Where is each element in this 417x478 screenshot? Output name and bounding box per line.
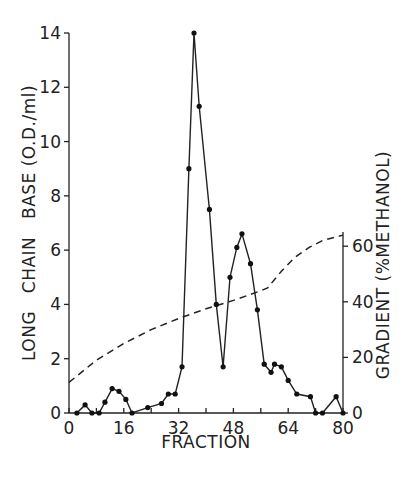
data-point [334,394,339,399]
long-chain-base-line [77,33,343,413]
data-point [294,391,299,396]
data-point [262,362,267,367]
y-tick-label: 0 [50,403,61,423]
data-point [74,410,79,415]
gradient-dashed-line [69,235,343,382]
data-point [207,207,212,212]
x-tick-label: 16 [113,418,135,438]
y-tick-label: 6 [50,240,61,260]
x-tick-label: 0 [64,418,75,438]
axes [64,33,348,413]
y-tick-label: 2 [50,349,61,369]
data-point [166,391,171,396]
data-point [255,307,260,312]
y-axis-label: LONG CHAIN BASE (O.D./ml) [19,85,39,361]
data-point [129,410,134,415]
data-point [286,378,291,383]
data-point [102,400,107,405]
data-point [191,30,196,35]
data-point [82,402,87,407]
data-point [145,405,150,410]
data-point [320,410,325,415]
y-tick-label: 4 [50,294,61,314]
x-tick-label: 64 [277,418,299,438]
data-point [97,410,102,415]
data-point [89,410,94,415]
y2-tick-label: 40 [352,292,374,312]
data-point [179,364,184,369]
data-point [116,389,121,394]
y-tick-label: 14 [39,23,61,43]
y2-axis-label: GRADIENT (%METHANOL) [373,151,393,379]
data-point [239,231,244,236]
data-point [313,410,318,415]
data-point [268,370,273,375]
y-tick-label: 8 [50,186,61,206]
y-tick-label: 12 [39,77,61,97]
data-point [214,302,219,307]
data-point [186,166,191,171]
data-point [248,261,253,266]
x-tick-label: 80 [332,418,354,438]
data-point [173,391,178,396]
data-point [340,410,345,415]
data-point [234,245,239,250]
data-point [221,364,226,369]
data-point [272,362,277,367]
tick-labels: 01632486480024681012140204060 [39,23,373,438]
data-point [279,364,284,369]
data-point [123,397,128,402]
y2-tick-label: 20 [352,347,374,367]
x-axis-label: FRACTION [161,432,251,452]
y-tick-label: 10 [39,132,61,152]
data-point [110,386,115,391]
y2-tick-label: 60 [352,236,374,256]
data-point [197,104,202,109]
data-point [159,401,164,406]
data-point [308,394,313,399]
chromatogram-chart: 01632486480024681012140204060 FRACTION L… [0,0,417,478]
y2-tick-label: 0 [352,403,363,423]
data-point [227,275,232,280]
